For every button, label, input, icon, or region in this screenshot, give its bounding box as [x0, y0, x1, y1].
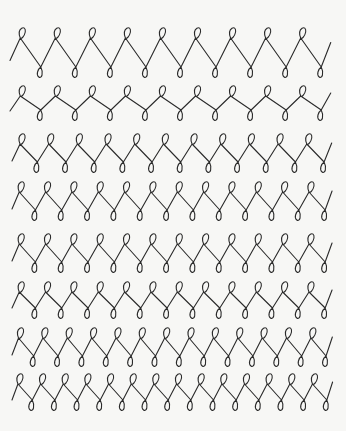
loop-row-7 [12, 328, 332, 367]
loop-row-5 [12, 234, 332, 273]
loop-row-3 [12, 134, 332, 173]
loop-row-8 [12, 374, 333, 411]
loop-row-1 [10, 28, 331, 78]
practice-sheet [0, 0, 346, 431]
loop-row-4 [12, 182, 332, 221]
cursive-loop-strokes [0, 0, 346, 431]
loop-row-6 [12, 282, 332, 319]
loop-row-2 [10, 86, 331, 121]
